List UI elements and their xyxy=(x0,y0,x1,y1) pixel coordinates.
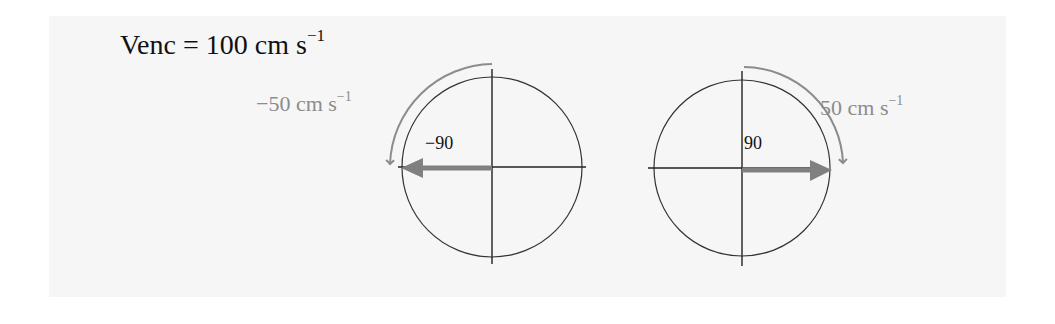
left-vector-arrowhead-icon xyxy=(401,158,423,178)
right-velocity-exponent: −1 xyxy=(888,93,903,108)
left-velocity-text: −50 cm s xyxy=(256,91,337,116)
right-velocity-label: 50 cm s−1 xyxy=(820,96,903,119)
left-velocity-label: −50 cm s−1 xyxy=(256,92,352,115)
venc-title: Venc = 100 cm s−1 xyxy=(120,30,325,59)
venc-title-exponent: −1 xyxy=(307,26,325,45)
left-velocity-exponent: −1 xyxy=(337,89,352,104)
left-phase-diagram xyxy=(390,64,586,264)
right-phase-diagram xyxy=(648,67,843,266)
venc-title-text: Venc = 100 cm s xyxy=(120,29,307,60)
right-velocity-text: 50 cm s xyxy=(820,95,888,120)
left-phase-label: −90 xyxy=(425,134,453,152)
right-phase-label: 90 xyxy=(744,134,762,152)
right-vector-arrowhead-icon xyxy=(810,160,832,181)
